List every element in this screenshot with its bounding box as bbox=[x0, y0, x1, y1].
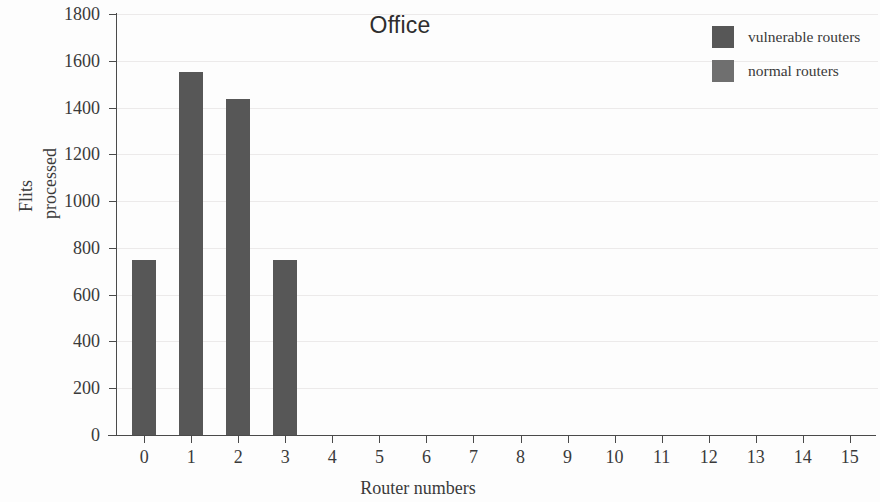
y-axis-tick bbox=[109, 61, 117, 62]
x-axis-tick bbox=[709, 435, 710, 443]
x-axis-tick-label: 12 bbox=[689, 447, 729, 468]
x-axis-tick bbox=[756, 435, 757, 443]
legend-swatch bbox=[712, 26, 734, 48]
bar bbox=[226, 99, 250, 435]
bar bbox=[179, 72, 203, 435]
x-axis-tick-label: 4 bbox=[312, 447, 352, 468]
y-axis-tick-label: 1400 bbox=[40, 97, 100, 118]
x-axis-tick-label: 0 bbox=[124, 447, 164, 468]
x-axis-tick bbox=[285, 435, 286, 443]
legend-swatch bbox=[712, 60, 734, 82]
x-axis-tick-label: 1 bbox=[171, 447, 211, 468]
x-axis-tick bbox=[662, 435, 663, 443]
y-axis-tick bbox=[109, 248, 117, 249]
y-axis-tick bbox=[109, 154, 117, 155]
y-axis-tick bbox=[109, 108, 117, 109]
x-axis-tick-label: 7 bbox=[453, 447, 493, 468]
x-axis-tick-label: 6 bbox=[406, 447, 446, 468]
x-axis-tick bbox=[803, 435, 804, 443]
x-axis-tick-label: 14 bbox=[783, 447, 823, 468]
x-axis-tick-label: 2 bbox=[218, 447, 258, 468]
x-axis-tick bbox=[568, 435, 569, 443]
y-axis-tick bbox=[109, 388, 117, 389]
legend-label: normal routers bbox=[748, 62, 839, 80]
legend-item[interactable]: vulnerable routers bbox=[712, 20, 860, 54]
y-axis-tick bbox=[109, 201, 117, 202]
y-axis-tick-label: 400 bbox=[40, 331, 100, 352]
y-axis-tick bbox=[109, 295, 117, 296]
x-axis-tick bbox=[473, 435, 474, 443]
legend-item[interactable]: normal routers bbox=[712, 54, 860, 88]
x-axis-tick-label: 8 bbox=[501, 447, 541, 468]
x-axis-tick-label: 10 bbox=[595, 447, 635, 468]
gridline bbox=[116, 14, 878, 15]
y-axis-tick bbox=[109, 14, 117, 15]
x-axis-tick-label: 11 bbox=[642, 447, 682, 468]
x-axis-tick bbox=[426, 435, 427, 443]
x-axis-tick bbox=[615, 435, 616, 443]
x-axis-tick bbox=[332, 435, 333, 443]
y-axis-tick-label: 600 bbox=[40, 284, 100, 305]
y-axis-title-line-1: Flits bbox=[16, 180, 37, 212]
x-axis-tick bbox=[379, 435, 380, 443]
y-axis-tick bbox=[109, 435, 117, 436]
x-axis-tick bbox=[850, 435, 851, 443]
x-axis-tick-label: 13 bbox=[736, 447, 776, 468]
x-axis-title: Router numbers bbox=[0, 478, 858, 499]
y-axis-title: Flits processed bbox=[0, 148, 44, 298]
x-axis-tick-label: 15 bbox=[830, 447, 870, 468]
y-axis-tick bbox=[109, 341, 117, 342]
x-axis-tick bbox=[521, 435, 522, 443]
legend-label: vulnerable routers bbox=[748, 28, 860, 46]
x-axis-tick bbox=[144, 435, 145, 443]
x-axis-tick-label: 3 bbox=[265, 447, 305, 468]
x-axis-line bbox=[108, 435, 876, 436]
y-axis-title-line-2: processed bbox=[40, 148, 61, 219]
legend: vulnerable routersnormal routers bbox=[712, 20, 860, 88]
y-axis-tick-label: 1800 bbox=[40, 4, 100, 25]
x-axis-tick-label: 9 bbox=[548, 447, 588, 468]
y-axis-tick-label: 200 bbox=[40, 378, 100, 399]
bar bbox=[132, 260, 156, 435]
y-axis-tick-label: 0 bbox=[40, 425, 100, 446]
y-axis-tick-label: 1600 bbox=[40, 50, 100, 71]
y-axis-tick-label: 800 bbox=[40, 237, 100, 258]
x-axis-tick bbox=[191, 435, 192, 443]
x-axis-tick bbox=[238, 435, 239, 443]
x-axis-tick-label: 5 bbox=[359, 447, 399, 468]
bar-chart-figure: Office 020040060080010001200140016001800… bbox=[0, 0, 880, 502]
bar bbox=[273, 260, 297, 435]
